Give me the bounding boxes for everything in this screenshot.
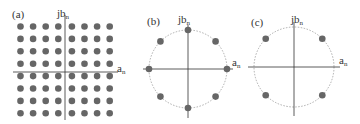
constellation-point: [42, 60, 49, 67]
constellation-point: [262, 92, 269, 99]
constellation-point: [55, 60, 62, 67]
constellation-point: [55, 23, 62, 30]
constellation-point: [55, 36, 62, 43]
constellation-point: [55, 85, 62, 92]
constellation-point: [94, 23, 101, 30]
constellation-point: [17, 98, 24, 105]
panel-b-label: (b): [147, 15, 160, 28]
constellation-point: [81, 60, 88, 67]
panel-c-label: (c): [251, 16, 264, 29]
constellation-point: [30, 110, 37, 117]
constellation-point: [81, 98, 88, 105]
constellation-point: [69, 36, 76, 43]
constellation-point: [94, 60, 101, 67]
constellation-point: [185, 105, 192, 112]
constellation-point: [106, 60, 113, 67]
constellation-point: [30, 98, 37, 105]
constellation-point: [94, 98, 101, 105]
y-axis-label: jbn: [56, 7, 70, 21]
constellation-point: [17, 36, 24, 43]
constellation-point: [69, 85, 76, 92]
constellation-point: [94, 48, 101, 55]
constellation-point: [94, 73, 101, 80]
constellation-point: [94, 36, 101, 43]
constellation-point: [106, 85, 113, 92]
y-axis-label: jbn: [290, 13, 304, 27]
constellation-point: [69, 98, 76, 105]
constellation-point: [30, 23, 37, 30]
constellation-point: [42, 98, 49, 105]
constellation-point: [17, 110, 24, 117]
constellation-point: [17, 48, 24, 55]
y-axis-label: jbn: [177, 13, 191, 27]
constellation-point: [69, 60, 76, 67]
constellation-point: [319, 92, 326, 99]
constellation-point: [94, 110, 101, 117]
constellation-point: [212, 38, 219, 45]
constellation-point: [55, 98, 62, 105]
constellation-diagram: (a) jbn an (b) jbn an (c) jbn an: [0, 0, 360, 124]
x-axis-label: an: [339, 54, 348, 68]
constellation-point: [81, 85, 88, 92]
x-axis-label: an: [117, 62, 126, 76]
constellation-point: [17, 60, 24, 67]
constellation-point: [55, 48, 62, 55]
constellation-point: [69, 23, 76, 30]
constellation-point: [30, 85, 37, 92]
panel-b: (b) jbn an: [143, 13, 241, 118]
panel-c: (c) jbn an: [248, 13, 348, 116]
constellation-point: [157, 38, 164, 45]
constellation-point: [17, 23, 24, 30]
constellation-point: [262, 35, 269, 42]
constellation-point: [81, 73, 88, 80]
constellation-point: [106, 73, 113, 80]
constellation-point: [69, 73, 76, 80]
constellation-point: [30, 73, 37, 80]
constellation-point: [106, 48, 113, 55]
constellation-point: [30, 48, 37, 55]
constellation-point: [146, 66, 153, 73]
constellation-point: [69, 110, 76, 117]
constellation-point: [42, 23, 49, 30]
constellation-point: [30, 36, 37, 43]
constellation-point: [42, 36, 49, 43]
constellation-point: [55, 110, 62, 117]
panel-a-label: (a): [12, 8, 25, 21]
constellation-point: [106, 98, 113, 105]
constellation-point: [319, 35, 326, 42]
constellation-point: [81, 48, 88, 55]
x-axis-label: an: [232, 56, 241, 70]
constellation-point: [224, 66, 231, 73]
constellation-point: [42, 110, 49, 117]
constellation-point: [55, 73, 62, 80]
constellation-point: [81, 36, 88, 43]
panel-a: (a) jbn an: [12, 7, 126, 120]
constellation-point: [42, 85, 49, 92]
constellation-point: [17, 73, 24, 80]
constellation-point: [42, 48, 49, 55]
constellation-point: [94, 85, 101, 92]
constellation-point: [106, 110, 113, 117]
constellation-point: [157, 93, 164, 100]
constellation-point: [30, 60, 37, 67]
constellation-point: [81, 23, 88, 30]
constellation-point: [212, 93, 219, 100]
constellation-point: [81, 110, 88, 117]
constellation-point: [106, 36, 113, 43]
constellation-point: [185, 27, 192, 34]
constellation-point: [106, 23, 113, 30]
constellation-point: [69, 48, 76, 55]
constellation-point: [42, 73, 49, 80]
constellation-point: [17, 85, 24, 92]
